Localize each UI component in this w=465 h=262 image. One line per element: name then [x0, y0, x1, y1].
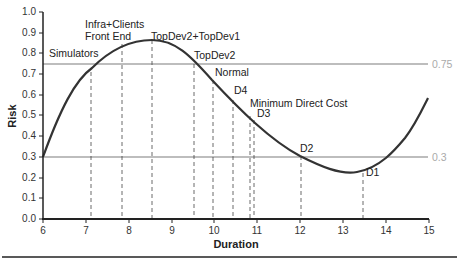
- svg-text:0.1: 0.1: [22, 192, 36, 203]
- svg-text:0.3: 0.3: [22, 151, 36, 162]
- annotation-d2: D2: [300, 142, 314, 154]
- y-axis-title: Risk: [6, 104, 18, 128]
- ref-label-075: 0.75: [432, 58, 453, 70]
- annotations: Simulators Infra+Clients Front End TopDe…: [49, 18, 380, 178]
- svg-text:0.7: 0.7: [22, 68, 36, 79]
- svg-text:0.5: 0.5: [22, 109, 36, 120]
- risk-curve: [43, 40, 428, 173]
- ref-label-03: 0.3: [432, 151, 447, 163]
- svg-text:0.6: 0.6: [22, 89, 36, 100]
- svg-text:0.4: 0.4: [22, 130, 36, 141]
- svg-text:14: 14: [380, 225, 392, 236]
- svg-text:6: 6: [40, 225, 46, 236]
- x-axis-title: Duration: [213, 238, 259, 250]
- annotation-infra-line1: Infra+Clients: [85, 18, 144, 30]
- annotation-simulators: Simulators: [49, 47, 99, 59]
- svg-text:0.0: 0.0: [22, 213, 36, 224]
- annotation-topdev2: TopDev2: [194, 49, 236, 61]
- svg-text:9: 9: [169, 225, 175, 236]
- svg-text:1.0: 1.0: [22, 6, 36, 17]
- svg-text:10: 10: [208, 225, 220, 236]
- annotation-normal: Normal: [215, 66, 249, 78]
- svg-text:8: 8: [126, 225, 132, 236]
- risk-duration-chart: 0.0 0.1 0.2 0.3 0.4 0.5 0.6 0.7 0.8 0.9 …: [0, 0, 465, 262]
- svg-text:0.2: 0.2: [22, 172, 36, 183]
- svg-text:0.9: 0.9: [22, 27, 36, 38]
- svg-text:7: 7: [83, 225, 89, 236]
- x-tick-labels: 6 7 8 9 10 11 12 13 14 15: [40, 225, 435, 236]
- annotation-d4: D4: [234, 84, 248, 96]
- svg-text:0.8: 0.8: [22, 47, 36, 58]
- y-tick-labels: 0.0 0.1 0.2 0.3 0.4 0.5 0.6 0.7 0.8 0.9 …: [22, 6, 36, 224]
- svg-text:12: 12: [294, 225, 306, 236]
- svg-text:13: 13: [337, 225, 349, 236]
- annotation-d3: D3: [257, 107, 271, 119]
- annotation-infra-line2: Front End: [85, 30, 131, 42]
- annotation-d1: D1: [366, 166, 380, 178]
- annotation-topdev2-topdev1: TopDev2+TopDev1: [151, 30, 240, 42]
- svg-text:11: 11: [252, 225, 263, 236]
- svg-text:15: 15: [423, 225, 435, 236]
